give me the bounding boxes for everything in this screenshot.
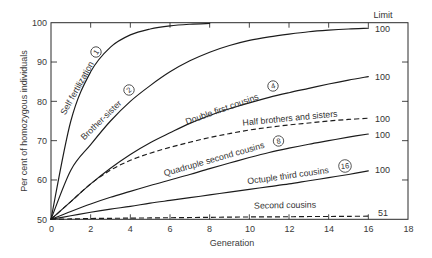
x-tick-label: 4: [128, 224, 133, 234]
label-quadruple-second-cousins: Quadruple second cousins: [163, 140, 266, 178]
limit-column: Limit 100 100 100 100 100 51: [373, 10, 393, 218]
x-axis-label: Generation: [210, 238, 255, 248]
y-tick-label: 70: [37, 136, 47, 146]
label-self-fertilization: Self fertilization: [58, 59, 96, 116]
x-tick-label: 16: [364, 224, 374, 234]
x-tick-label: 10: [245, 224, 255, 234]
x-tick-label: 14: [324, 224, 334, 234]
label-half-brothers-and-sisters: Half brothers and sisters: [242, 108, 338, 127]
y-tick-label: 50: [37, 215, 47, 225]
y-tick-label: 90: [37, 57, 47, 67]
marker-circle-4: 4: [267, 80, 280, 93]
marker-circle-2: 2: [122, 83, 137, 98]
marker-circle-8: 8: [272, 135, 284, 147]
limit-brother-sister: 100: [375, 24, 390, 34]
label-brother-sister: Brother-sister: [79, 98, 124, 142]
curve-quadruple-second-cousins: [51, 134, 368, 219]
x-tick-label: 18: [403, 224, 413, 234]
x-tick-label: 0: [49, 224, 54, 234]
x-tick-label: 6: [167, 224, 172, 234]
marker-number: 16: [340, 161, 349, 171]
limit-quadruple-second-cousins: 100: [375, 130, 390, 140]
limit-double-first-cousins: 100: [375, 72, 390, 82]
x-tick-label: 2: [88, 224, 93, 234]
x-tick-label: 8: [207, 224, 212, 234]
marker-circle-16: 16: [338, 159, 352, 173]
y-axis-label: Per cent of homozygous individuals: [19, 50, 29, 192]
y-tick-label: 100: [32, 18, 47, 28]
limit-second-cousins: 51: [378, 208, 388, 218]
curve-double-first-cousins: [51, 77, 368, 220]
x-tick-labels: 0 2 4 6 8 10 12 14 16 18: [49, 224, 414, 234]
x-tick-label: 12: [284, 224, 294, 234]
label-second-cousins: Second cousins: [254, 200, 317, 211]
limit-header: Limit: [373, 10, 393, 20]
inbreeding-homozygosity-chart: 50 60 70 80 90 100 0 2 4 6 8 10 12 14 16…: [0, 0, 432, 258]
label-octuple-third-cousins: Octuple third cousins: [247, 165, 330, 186]
curve-labels: Self fertilization Brother-sister Double…: [58, 59, 338, 210]
y-tick-label: 80: [37, 97, 47, 107]
y-tick-labels: 50 60 70 80 90 100: [32, 18, 47, 225]
y-tick-label: 60: [37, 175, 47, 185]
limit-octuple-third-cousins: 100: [375, 165, 390, 175]
limit-half-brothers-and-sisters: 100: [375, 114, 390, 124]
curve-octuple-third-cousins: [51, 171, 368, 219]
